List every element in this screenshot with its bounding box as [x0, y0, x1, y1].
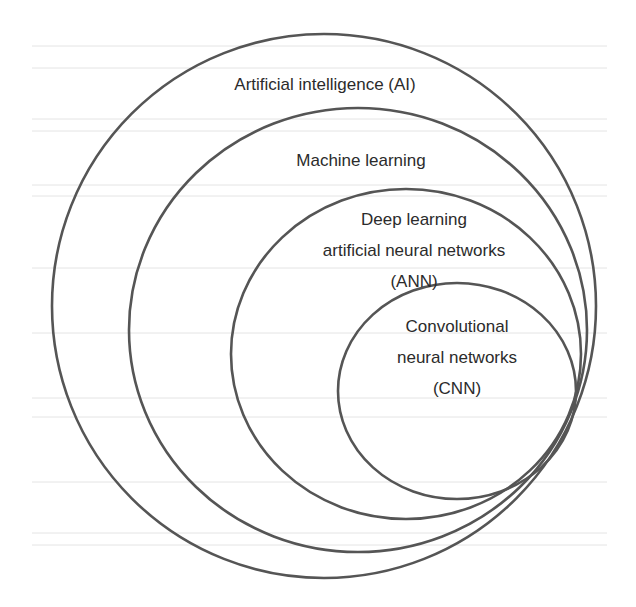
dl-label-line-2: artificial neural networks	[323, 235, 505, 266]
cnn-label-line-1: Convolutional	[397, 311, 517, 342]
ml-label-line: Machine learning	[296, 145, 425, 176]
background-lines	[32, 46, 607, 545]
cnn-label-line-3: (CNN)	[397, 373, 517, 404]
ai-set-circle	[52, 34, 596, 578]
dl-label-line-3: (ANN)	[323, 266, 505, 297]
ai-label-line: Artificial intelligence (AI)	[234, 69, 415, 100]
cnn-label: Convolutional neural networks (CNN)	[397, 311, 517, 404]
dl-label: Deep learning artificial neural networks…	[323, 204, 505, 297]
ml-label: Machine learning	[296, 145, 425, 176]
ai-label: Artificial intelligence (AI)	[234, 69, 415, 100]
cnn-label-line-2: neural networks	[397, 342, 517, 373]
dl-label-line-1: Deep learning	[323, 204, 505, 235]
